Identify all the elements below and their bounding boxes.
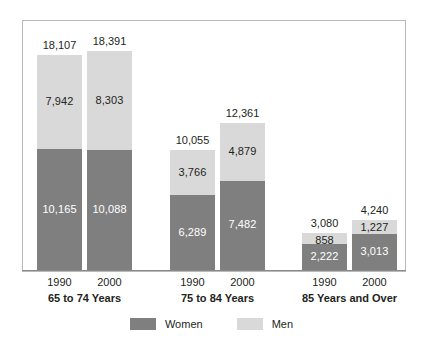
bar-total-value: 4,240: [352, 204, 397, 216]
bar-segment-men-value: 7,942: [37, 95, 82, 107]
x-tick-label-year: 1990: [170, 276, 215, 288]
bar-total-value: 18,107: [37, 39, 82, 51]
bar-segment-women-value: 2,222: [302, 250, 347, 262]
bar-segment-women: 10,088: [87, 150, 132, 270]
x-group-label: 65 to 74 Years: [23, 292, 146, 304]
legend-label: Men: [272, 318, 293, 330]
bar-segment-men: 1,227: [352, 220, 397, 235]
legend-label: Women: [165, 318, 203, 330]
stacked-bar: 8,30310,088: [87, 51, 132, 270]
bar-segment-women-value: 10,088: [87, 203, 132, 215]
bar-segment-women: 2,222: [302, 244, 347, 270]
bar-segment-women-value: 3,013: [352, 245, 397, 257]
x-tick-label-year: 1990: [302, 276, 347, 288]
bar-segment-men: 7,942: [37, 55, 82, 149]
x-tick-label-year: 2000: [352, 276, 397, 288]
stacked-bar: 8582,222: [302, 233, 347, 270]
bar-segment-women-value: 10,165: [37, 203, 82, 215]
stacked-bar: 7,94210,165: [37, 55, 82, 270]
bar-segment-men-value: 3,766: [170, 166, 215, 178]
x-tick-label-year: 2000: [87, 276, 132, 288]
bar-segment-men-value: 8,303: [87, 94, 132, 106]
chart-legend: WomenMen: [0, 314, 423, 334]
bar-total-value: 10,055: [170, 134, 215, 146]
legend-entry: Men: [237, 318, 293, 330]
bar-total-value: 12,361: [220, 107, 265, 119]
stacked-bar: 4,8797,482: [220, 123, 265, 270]
bar-segment-men-value: 4,879: [220, 145, 265, 157]
bar-segment-men: 3,766: [170, 150, 215, 195]
bar-total-value: 3,080: [302, 217, 347, 229]
bar-segment-women-value: 6,289: [170, 226, 215, 238]
stacked-bar: 1,2273,013: [352, 220, 397, 270]
x-group-label: 85 Years and Over: [288, 292, 411, 304]
stacked-bar-chart: 7,94210,1658,30310,0883,7666,2894,8797,4…: [0, 0, 423, 352]
legend-swatch-men: [237, 318, 263, 330]
bar-segment-women: 3,013: [352, 234, 397, 270]
bar-segment-men: 4,879: [220, 123, 265, 181]
stacked-bar: 3,7666,289: [170, 150, 215, 270]
x-tick-label-year: 2000: [220, 276, 265, 288]
bar-segment-women: 7,482: [220, 181, 265, 270]
bar-segment-women-value: 7,482: [220, 218, 265, 230]
x-axis-baseline: [22, 270, 406, 271]
x-tick-label-year: 1990: [37, 276, 82, 288]
bar-segment-men-value: 858: [302, 234, 347, 243]
legend-entry: Women: [130, 318, 203, 330]
x-group-label: 75 to 84 Years: [156, 292, 279, 304]
legend-swatch-women: [130, 318, 156, 330]
bar-segment-men-value: 1,227: [352, 221, 397, 233]
bar-segment-men: 858: [302, 233, 347, 243]
bar-segment-women: 6,289: [170, 195, 215, 270]
bar-total-value: 18,391: [87, 35, 132, 47]
bar-segment-men: 8,303: [87, 51, 132, 150]
bar-segment-women: 10,165: [37, 149, 82, 270]
